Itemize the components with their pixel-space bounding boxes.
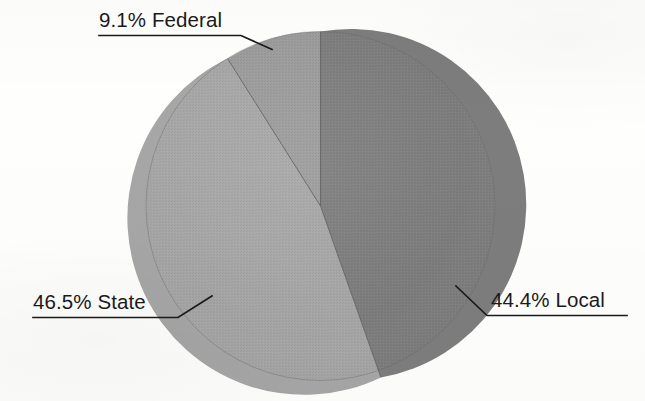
leader-line-federal — [99, 36, 272, 50]
pie-chart — [0, 0, 645, 401]
pie-label-state: 46.5% State — [33, 290, 146, 314]
pie-label-federal: 9.1% Federal — [99, 8, 222, 32]
pie-label-local: 44.4% Local — [491, 288, 605, 312]
chart-page: 9.1% Federal 46.5% State 44.4% Local — [0, 0, 645, 401]
